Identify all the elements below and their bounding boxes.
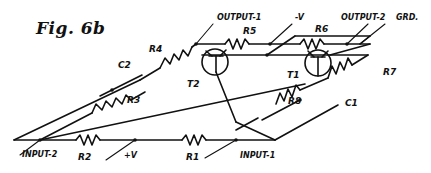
r6-label: R6 bbox=[315, 25, 328, 34]
r4-label: R4 bbox=[149, 45, 162, 54]
circuit-diagram: Fig. 6b OUTPUT-1 -V OUTPUT-2 GRD. INPUT-… bbox=[0, 0, 431, 173]
ground-label: GRD. bbox=[396, 14, 418, 22]
left-diagonals bbox=[14, 80, 305, 140]
c2-label: C2 bbox=[118, 61, 131, 70]
output-2-label: OUTPUT-2 bbox=[341, 14, 385, 22]
minus-v-label: -V bbox=[295, 14, 304, 22]
r5-label: R5 bbox=[243, 27, 256, 36]
input-1-label: INPUT-1 bbox=[240, 152, 275, 160]
input-1-lead bbox=[205, 140, 236, 158]
r3-label: R3 bbox=[127, 96, 140, 105]
terminal-leads bbox=[196, 24, 385, 44]
capacitor-c2 bbox=[100, 75, 142, 96]
r2-label: R2 bbox=[78, 153, 91, 162]
transistor-t2 bbox=[202, 49, 275, 140]
r7-label: R7 bbox=[383, 68, 396, 77]
plus-v-label: +V bbox=[124, 152, 137, 160]
second-rail bbox=[202, 36, 370, 57]
c1-label: C1 bbox=[345, 99, 358, 108]
output-1-label: OUTPUT-1 bbox=[217, 14, 261, 22]
r1-label: R1 bbox=[186, 153, 199, 162]
t1-label: T1 bbox=[287, 71, 299, 80]
transistor-t1 bbox=[305, 50, 331, 76]
r8-label: R8 bbox=[288, 97, 301, 106]
figure-title: Fig. 6b bbox=[36, 18, 105, 38]
t2-label: T2 bbox=[187, 80, 199, 89]
input-2-label: INPUT-2 bbox=[22, 151, 57, 159]
